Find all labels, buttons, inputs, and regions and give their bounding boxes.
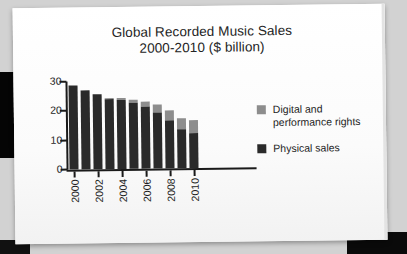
legend-item: Digital andperformance rights [257, 102, 377, 128]
legend-label: Digital andperformance rights [273, 102, 361, 128]
chart-title-line1: Global Recorded Music Sales [112, 23, 293, 40]
x-axis-tick [194, 170, 196, 176]
y-axis-tick [61, 169, 68, 171]
bar-2005 [129, 100, 139, 169]
bar-segment-physical [69, 86, 79, 170]
bar-segment-physical [81, 90, 91, 169]
printed-page: Global Recorded Music Sales 2000-2010 ($… [13, 4, 388, 245]
x-axis-tick-label: 2004 [117, 179, 129, 203]
y-axis-tick [60, 110, 67, 112]
bar-2010 [189, 120, 199, 168]
bar-segment-digital [165, 111, 174, 121]
bar-2007 [153, 105, 163, 169]
y-axis-tick-label: 20 [34, 104, 62, 116]
bar-2006 [141, 102, 151, 169]
x-axis-tick [98, 171, 100, 177]
bar-segment-physical [105, 99, 115, 169]
bar-series-group [68, 80, 198, 170]
legend-swatch [257, 105, 266, 114]
legend-item: Physical sales [257, 141, 377, 155]
x-axis-tick-label: 2006 [141, 179, 153, 203]
bar-segment-digital [177, 118, 186, 130]
bar-2009 [177, 118, 187, 168]
bar-2003 [105, 98, 115, 169]
bar-segment-digital [189, 120, 198, 133]
chart-plot-area: 0102030 200020022004200620082010 [31, 79, 262, 197]
y-axis-tick-label: 30 [33, 75, 61, 87]
bar-segment-physical [93, 94, 103, 169]
y-axis-tick [59, 81, 66, 83]
bar-segment-physical [117, 100, 127, 169]
bar-segment-physical [177, 129, 186, 168]
bar-segment-physical [165, 121, 175, 169]
x-axis-tick [170, 170, 172, 176]
x-axis-tick [74, 172, 76, 178]
y-axis-labels: 0102030 [29, 82, 62, 172]
bar-2001 [81, 90, 91, 169]
x-axis-tick-label: 2008 [165, 178, 177, 202]
bar-segment-physical [129, 103, 139, 169]
y-axis-tick-label: 10 [34, 133, 62, 145]
bar-2002 [93, 94, 103, 169]
bar-2000 [69, 86, 79, 170]
x-axis-tick-label: 2002 [93, 179, 105, 203]
bar-segment-physical [189, 133, 198, 168]
bar-segment-physical [153, 112, 163, 168]
legend-label: Physical sales [273, 141, 340, 154]
x-axis-tick [146, 171, 148, 177]
chart-title: Global Recorded Music Sales 2000-2010 ($… [13, 22, 385, 59]
bar-segment-digital [153, 105, 162, 113]
bar-segment-physical [141, 107, 151, 169]
y-axis-tick-label: 0 [34, 163, 62, 175]
chart-legend: Digital andperformance rightsPhysical sa… [257, 102, 378, 169]
bar-2004 [117, 98, 127, 169]
x-axis-tick [122, 171, 124, 177]
bar-2008 [165, 111, 175, 169]
y-axis-tick [60, 139, 67, 141]
x-axis-tick-label: 2000 [69, 179, 81, 203]
x-axis-tick-label: 2010 [189, 178, 201, 202]
legend-swatch [257, 144, 266, 153]
